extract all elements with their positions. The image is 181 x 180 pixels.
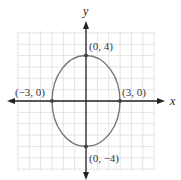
y-axis-label: y	[82, 4, 89, 18]
point-label-top: (0, 4)	[89, 40, 113, 53]
point-bottom	[84, 145, 88, 149]
point-label-bottom: (0, −4)	[89, 152, 119, 165]
point-label-left: (−3, 0)	[15, 86, 45, 99]
point-left	[50, 99, 54, 103]
point-right	[118, 99, 122, 103]
y-axis-up-arrow-icon	[83, 21, 89, 29]
x-axis-label: x	[169, 94, 176, 108]
point-label-right: (3, 0)	[122, 86, 146, 99]
x-axis-left-arrow-icon	[7, 98, 15, 104]
ellipse-graph: x y (0, 4) (0, −4) (−3, 0) (3, 0)	[0, 0, 181, 180]
x-axis-right-arrow-icon	[157, 98, 165, 104]
point-top	[84, 54, 88, 58]
y-axis-down-arrow-icon	[83, 172, 89, 180]
